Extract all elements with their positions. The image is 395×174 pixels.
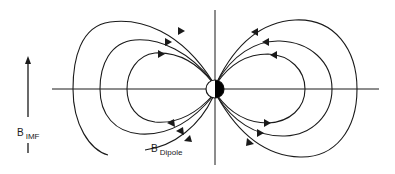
arrow-icon — [184, 135, 192, 142]
arrow-icon — [262, 38, 269, 46]
imf-label: BIMF — [17, 122, 39, 140]
arrow-icon — [264, 119, 271, 127]
arrow-icon — [158, 50, 165, 58]
arrow-icon — [257, 129, 264, 137]
field-line-right-outer — [217, 20, 357, 157]
arrow-icon — [167, 119, 175, 127]
imf-label-sub: IMF — [26, 132, 40, 141]
arrow-icon — [270, 51, 277, 59]
dipole-label-main: B — [151, 143, 158, 154]
arrow-icon — [176, 127, 184, 135]
arrow-icon — [178, 27, 185, 35]
field-line-left-outer — [73, 21, 213, 155]
dipole-icon — [206, 80, 224, 98]
arrow-icon — [165, 38, 172, 46]
imf-label-main: B — [17, 127, 24, 138]
field-line-left-middle — [100, 40, 213, 134]
dipole-label-sub: Dipole — [160, 148, 183, 157]
dipole-label: BDipole — [151, 138, 182, 156]
field-diagram — [0, 0, 395, 174]
